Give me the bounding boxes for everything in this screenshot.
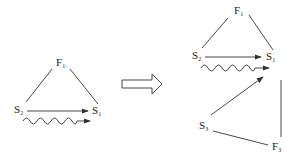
left-triangle	[23, 69, 98, 124]
label-right-f3: F3	[272, 141, 281, 153]
transform-arrow-icon	[122, 74, 162, 94]
right-top-triangle	[201, 15, 273, 71]
arrow-s3-s1	[211, 77, 263, 115]
label-right-f1: F1	[234, 5, 243, 17]
label-right-s1: S1	[266, 51, 275, 63]
label-left-s2: S2	[14, 104, 23, 116]
diagram-canvas	[0, 0, 294, 156]
label-right-s2: S2	[192, 50, 201, 62]
label-left-f1: F1	[56, 57, 65, 69]
left-wavy-arrow	[23, 118, 90, 124]
label-right-s3: S3	[199, 120, 208, 132]
label-left-s1: S1	[92, 105, 101, 117]
right-wavy-arrow	[201, 65, 269, 71]
right-bottom-triangle	[211, 77, 281, 145]
